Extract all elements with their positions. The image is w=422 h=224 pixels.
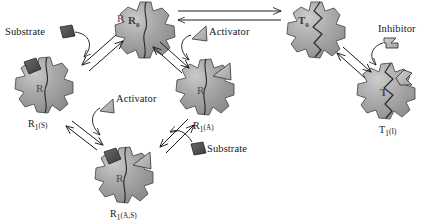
diagram-canvas: R R R R R0 T0 T R1(S) R1(A) R1(A,S) T1(I… (0, 0, 422, 224)
ligand-label-activator-mid: Activator (116, 93, 157, 104)
molecule-label-R0-base: R (128, 14, 136, 26)
molecule-R1S (15, 57, 73, 113)
caption-R1AS-paren: (A,S) (120, 212, 136, 220)
molecule-inner-letter-R1A: R (197, 84, 204, 96)
equilibrium-R1A-R1AS (160, 119, 194, 153)
caption-R1A-base: R (193, 120, 200, 131)
caption-R1AS-base: R (110, 208, 117, 219)
activator-icon-mid (100, 99, 114, 113)
molecule-R1AS (95, 147, 153, 203)
substrate-icon-right (191, 142, 206, 155)
molecule-label-T0: T0 (298, 14, 309, 29)
caption-R1S-paren: (S) (38, 122, 47, 130)
molecule-inner-letter-R0: R (117, 12, 124, 24)
ligand-label-substrate-right: Substrate (207, 143, 247, 154)
molecule-R0 (115, 2, 175, 58)
molecule-label-R0: R0 (128, 14, 139, 29)
binding-arrow-substrate-R1S (75, 32, 90, 57)
molecule-caption-R1AS: R1(A,S) (110, 208, 137, 222)
binding-arrow-activator-R1AS (93, 108, 101, 135)
molecule-inner-letter-T1I: T (380, 86, 387, 98)
molecule-label-R0-sub: 0 (136, 21, 140, 29)
molecule-T0 (287, 2, 345, 58)
caption-R1A-paren: (A) (203, 124, 213, 132)
binding-arrow-inhibitor-T1I (372, 43, 383, 65)
molecule-caption-R1A: R1(A) (193, 120, 214, 134)
ligand-label-substrate-left: Substrate (5, 26, 45, 37)
binding-arrow-substrate-R1AS (170, 130, 192, 142)
molecule-caption-R1S: R1(S) (28, 118, 48, 132)
molecule-inner-letter-R1S: R (36, 82, 43, 94)
substrate-icon-left (60, 25, 75, 38)
inhibitor-icon-right (384, 38, 398, 48)
equilibrium-R1S-R1AS (66, 121, 103, 150)
ligand-label-inhibitor-right: Inhibitor (378, 23, 416, 34)
ligand-label-activator-top: Activator (209, 26, 250, 37)
caption-T1I-paren: (I) (389, 128, 396, 136)
caption-R1S-base: R (28, 118, 35, 129)
molecule-label-T0-sub: 0 (305, 21, 309, 29)
binding-arrow-activator-R1A (182, 35, 191, 60)
equilibrium-R0-T0 (178, 11, 281, 20)
molecule-inner-letter-R1AS: R (116, 172, 123, 184)
molecule-caption-T1I: T1(I) (379, 124, 396, 138)
activator-icon-top (192, 26, 207, 41)
molecule-R1A (176, 59, 234, 115)
